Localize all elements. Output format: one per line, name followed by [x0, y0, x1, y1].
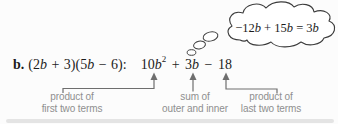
annotation-line: outer and inner [162, 103, 228, 115]
factored-part: − 6): [94, 57, 126, 72]
factored-var: b [40, 57, 47, 72]
annotation-last-terms: product of last two terms [241, 91, 301, 114]
product-coeff: 10 [141, 57, 155, 72]
annotation-outer-inner: sum of outer and inner [162, 91, 228, 114]
annotation-line: first two terms [42, 103, 103, 115]
annotation-first-terms: product of first two terms [42, 91, 103, 114]
factored-part: + 3)(5 [47, 57, 87, 72]
product-constant: 18 [218, 57, 232, 72]
product-var: b [192, 57, 199, 72]
bubble-term: −12 [235, 21, 255, 35]
bubble-var: b [313, 21, 319, 35]
annotation-line: product of [241, 91, 301, 103]
product-operator: + [166, 57, 185, 72]
expression-line: b.(2b + 3)(5b − 6):10b2 + 3b − 18 [13, 56, 232, 74]
product-operator: − [199, 57, 218, 72]
thought-trail-bubble-small [187, 50, 196, 56]
product-exponent: 2 [162, 54, 167, 64]
page-scan-edge [6, 119, 334, 123]
annotation-line: last two terms [241, 103, 301, 115]
expanded-form: 10b2 + 3b − 18 [141, 57, 232, 72]
annotation-line: product of [42, 91, 103, 103]
factored-part: (2 [28, 57, 40, 72]
thought-trail-bubble-large [202, 30, 219, 42]
product-coeff: 3 [185, 57, 192, 72]
bubble-term: + 15 [261, 21, 287, 35]
thought-bubble-text: −12b + 15b = 3b [235, 21, 319, 36]
product-var: b [155, 57, 162, 72]
item-label: b. [13, 57, 24, 72]
thought-trail-bubble-medium [193, 40, 206, 50]
factored-form: (2b + 3)(5b − 6): [28, 57, 126, 72]
bubble-term: = 3 [293, 21, 313, 35]
annotation-line: sum of [162, 91, 228, 103]
figure-canvas: −12b + 15b = 3b b.(2b + 3)(5b − 6):10b2 … [0, 0, 338, 124]
